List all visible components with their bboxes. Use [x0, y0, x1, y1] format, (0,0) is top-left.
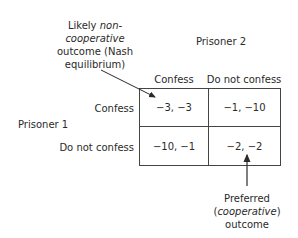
payoff-cell-notconfess-notconfess: −2, −2 — [209, 127, 280, 165]
paren-close: ) — [277, 206, 281, 217]
preferred-text-2: cooperative — [217, 206, 276, 217]
preferred-annotation: Preferred (cooperative) outcome — [213, 192, 280, 231]
payoff-cell-confess-notconfess: −1, −10 — [209, 89, 280, 126]
payoff-cell-confess-confess: −3, −3 — [140, 89, 208, 126]
preferred-text-1: Preferred — [213, 192, 280, 205]
preferred-text-3: outcome — [213, 218, 280, 231]
payoff-cell-notconfess-confess: −10, −1 — [140, 127, 208, 165]
